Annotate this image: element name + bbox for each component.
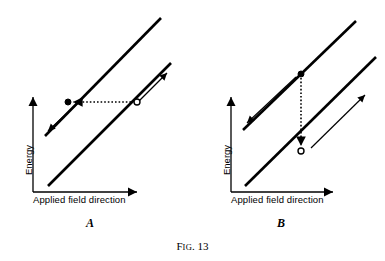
up-right-arrow-lower-band	[138, 73, 167, 102]
filled-state-marker	[298, 71, 304, 77]
open-state-marker	[298, 148, 304, 154]
filled-state-marker	[65, 99, 71, 105]
panel-b-label: B	[277, 216, 285, 231]
panel-a-label: A	[86, 216, 94, 231]
figure-caption-number: . 13	[192, 240, 209, 252]
panel-b-diagram	[193, 0, 385, 215]
up-right-arrow-lower-band	[311, 95, 365, 148]
lower-energy-band	[48, 63, 171, 186]
y-axis-label: Energy	[23, 145, 34, 175]
y-axis-label: Energy	[221, 145, 232, 175]
figure-13: Applied field direction Energy A	[0, 0, 385, 261]
panel-a-diagram	[0, 0, 192, 215]
down-left-arrow-upper-band	[247, 77, 296, 123]
x-axis-label: Applied field direction	[33, 194, 126, 205]
x-axis-label: Applied field direction	[231, 194, 324, 205]
figure-caption-smallcaps: IG	[183, 242, 193, 252]
figure-caption: FIG. 13	[0, 240, 385, 252]
lower-energy-band	[245, 57, 376, 186]
down-left-arrow-upper-band	[48, 102, 79, 131]
panel-a: Applied field direction Energy A	[0, 0, 192, 215]
open-state-marker	[134, 99, 140, 105]
panel-b: Applied field direction Energy B	[193, 0, 385, 215]
